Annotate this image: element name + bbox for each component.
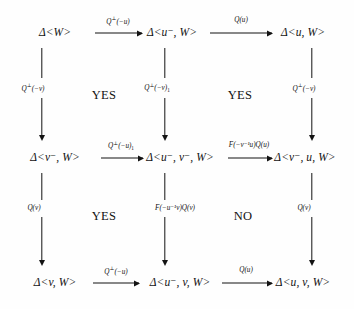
arrow-row2-col1-to-col2 [101,158,143,159]
arrowhead-col3-row1-to-row2 [309,135,315,141]
node-row1-col2: Δ<u⁻, W> [147,27,197,39]
arrowhead-col2-row1-to-row2 [162,135,168,141]
node-row1-col3: Δ<u, W> [281,27,325,39]
cell-annotation-row2-col2: NO [234,210,253,223]
arrow-col2-row2-to-row3-upper [164,173,165,200]
arrow-col3-row1-to-row2-upper [311,48,312,78]
arrow-col1-row2-to-row3-upper [41,173,42,200]
label-arrow-col1-row2-to-row3: Q(v) [27,205,40,212]
arrowhead-col1-row2-to-row3 [39,260,45,266]
label-arrow-col3-row1-to-row2: Q⊥(−v) [293,83,316,93]
commutative-diagram: Δ<W> Δ<u⁻, W> Δ<u, W> Δ<v⁻, W> Δ<u⁻, v⁻,… [0,0,354,309]
node-row1-col1: Δ<W> [39,27,71,39]
label-arrow-row3-col1-to-col2: Q⊥(−u) [104,266,127,276]
arrow-col1-row2-to-row3-lower [41,217,42,260]
node-row3-col3: Δ<u, v, W> [276,277,330,289]
arrow-row3-col1-to-col2 [93,283,139,284]
cell-annotation-row2-col1: YES [92,210,117,223]
label-arrow-row3-col2-to-col3: Q(u) [239,267,253,274]
arrow-col2-row2-to-row3-lower [164,217,165,260]
arrow-row3-col2-to-col3 [222,283,272,284]
label-arrow-row2-col1-to-col2: Q⊥(−u)1 [108,141,134,151]
cell-annotation-row1-col1: YES [92,89,117,102]
node-row2-col1: Δ<v⁻, W> [30,152,80,164]
arrow-row1-col2-to-col3 [210,33,272,34]
arrow-col2-row1-to-row2-upper [164,48,165,78]
label-arrow-col2-row1-to-row2: Q⊥(−v)1 [144,83,170,93]
arrow-col3-row2-to-row3-lower [311,217,312,260]
arrow-col1-row1-to-row2-upper [41,48,42,78]
label-arrow-col2-row2-to-row3: F(−u⁻¹v)Q(v) [155,205,195,212]
label-arrow-col1-row1-to-row2: Q⊥(−v) [22,83,45,93]
node-row3-col2: Δ<u⁻, v, W> [150,277,211,289]
label-arrow-col3-row2-to-row3: Q(v) [297,205,310,212]
node-row3-col1: Δ<v, W> [34,277,77,289]
arrow-col3-row2-to-row3-upper [311,173,312,200]
node-row2-col2: Δ<u⁻, v⁻, W> [146,152,214,164]
arrow-col3-row1-to-row2-lower [311,98,312,135]
arrowhead-col2-row2-to-row3 [162,260,168,266]
arrow-col2-row1-to-row2-lower [164,98,165,135]
arrowhead-col1-row1-to-row2 [39,135,45,141]
arrow-row2-col2-to-col3 [228,158,272,159]
label-arrow-row2-col2-to-col3: F(−v⁻¹u)Q(u) [229,142,269,149]
arrowhead-col3-row2-to-row3 [309,260,315,266]
label-arrow-row1-col1-to-col2: Q⊥(−u) [106,16,129,26]
arrow-col1-row1-to-row2-lower [41,98,42,135]
cell-annotation-row1-col2: YES [228,89,253,102]
node-row2-col3: Δ<v⁻, u, W> [274,152,335,164]
label-arrow-row1-col2-to-col3: Q(u) [234,17,248,24]
arrow-row1-col1-to-col2 [95,33,142,34]
